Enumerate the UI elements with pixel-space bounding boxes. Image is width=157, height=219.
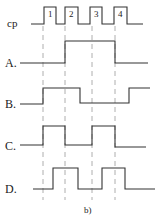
signal-b-label: B. bbox=[5, 98, 16, 110]
pulse-number-3: 3 bbox=[94, 10, 99, 19]
cp-label: cp bbox=[7, 18, 17, 29]
signal-b-waveform bbox=[20, 88, 150, 104]
pulse-number-2: 2 bbox=[69, 10, 74, 19]
timing-diagram bbox=[0, 0, 157, 219]
signal-a-label: A. bbox=[5, 57, 17, 69]
signal-c-waveform bbox=[20, 126, 146, 147]
signal-d-label: D. bbox=[5, 183, 17, 195]
pulse-number-4: 4 bbox=[118, 10, 123, 19]
signal-c-label: C. bbox=[5, 140, 16, 152]
signal-a-waveform bbox=[20, 41, 148, 63]
figure-caption: b) bbox=[84, 206, 92, 215]
reference-dashed-lines bbox=[43, 26, 115, 200]
signal-d-waveform bbox=[33, 168, 155, 189]
pulse-number-1: 1 bbox=[48, 10, 53, 19]
